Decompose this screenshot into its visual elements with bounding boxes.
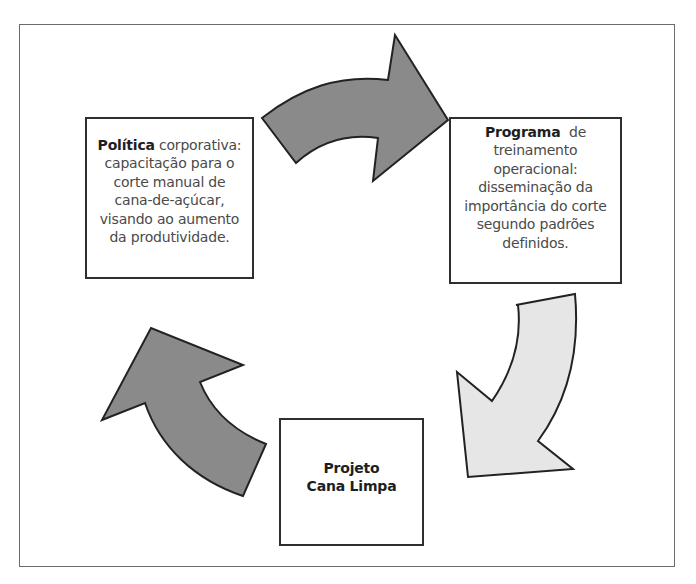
node-politica-corporativa: Política corporativa: capacitação para o… — [85, 117, 254, 279]
node-text: Política corporativa: capacitação para o… — [98, 136, 242, 247]
node-line: de — [569, 124, 586, 140]
node-line: da produtividade. — [109, 229, 229, 245]
node-line: Cana Limpa — [307, 478, 397, 494]
node-line: treinamento — [494, 142, 578, 158]
node-line: definidos. — [502, 235, 568, 251]
curved-arrow-right-icon — [262, 35, 448, 181]
node-line: operacional: — [493, 161, 577, 177]
curved-arrow-down-left-icon — [457, 294, 576, 477]
node-title: Programa — [485, 124, 561, 140]
node-line: segundo padrões — [477, 216, 595, 232]
node-text: Projeto Cana Limpa — [307, 459, 397, 495]
node-line: importância do corte — [464, 198, 606, 214]
node-line: corporativa: — [159, 137, 241, 153]
node-line: Projeto — [323, 460, 379, 476]
node-programa-treinamento: Programa de treinamento operacional: dis… — [449, 117, 622, 284]
node-line: cana-de-açúcar, — [115, 192, 225, 208]
node-line: visando ao aumento — [100, 211, 239, 227]
node-line: corte manual de — [114, 174, 226, 190]
curved-arrow-up-left-icon — [102, 328, 266, 496]
node-line: disseminação da — [478, 179, 593, 195]
node-projeto-cana-limpa: Projeto Cana Limpa — [279, 418, 424, 546]
node-line: capacitação para o — [105, 155, 235, 171]
node-title: Política — [98, 137, 155, 153]
node-text: Programa de treinamento operacional: dis… — [464, 123, 606, 253]
